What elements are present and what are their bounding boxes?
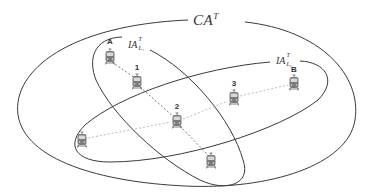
path-l2 bbox=[88, 85, 288, 138]
region-ia-l1-ellipse bbox=[93, 37, 245, 186]
region-ca-ellipse bbox=[18, 20, 356, 186]
node-label-a: A bbox=[107, 38, 113, 46]
train-icon bbox=[289, 75, 299, 91]
train-icon bbox=[77, 132, 87, 148]
train-icon bbox=[172, 113, 182, 129]
node-label-b: B bbox=[291, 66, 297, 74]
train-icon bbox=[132, 74, 142, 90]
node-label-2: 2 bbox=[175, 103, 179, 111]
node-label-1: 1 bbox=[135, 64, 139, 72]
ca-label: CAT bbox=[193, 12, 219, 28]
train-icon bbox=[206, 153, 216, 169]
ia-l2-label: IATL₂ bbox=[276, 56, 292, 66]
ia-l1-label: IATL₁ bbox=[128, 40, 144, 50]
node-label-3: 3 bbox=[232, 80, 236, 88]
train-icon bbox=[105, 49, 115, 65]
diagram-canvas bbox=[0, 0, 370, 196]
region-ia-l2-ellipse bbox=[75, 61, 328, 162]
train-icon bbox=[229, 90, 239, 106]
